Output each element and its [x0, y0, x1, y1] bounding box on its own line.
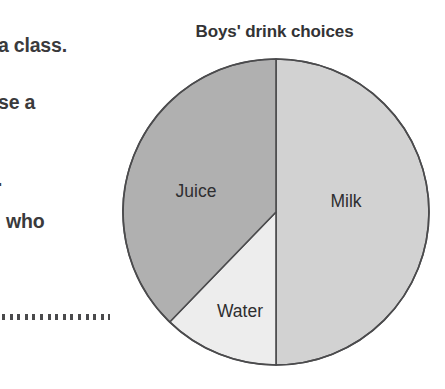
pie-chart: Boys' drink choices MilkWaterJuice [0, 0, 445, 389]
pie-slice-milk [276, 59, 429, 365]
pie-slice-label-juice: Juice [176, 181, 217, 201]
worksheet-page: a class. se a . who Boys' drink choices … [0, 0, 445, 389]
pie-chart-svg: MilkWaterJuice [0, 0, 445, 389]
pie-slice-group [123, 59, 429, 365]
pie-slice-label-milk: Milk [330, 191, 361, 211]
pie-slice-label-water: Water [217, 301, 263, 321]
